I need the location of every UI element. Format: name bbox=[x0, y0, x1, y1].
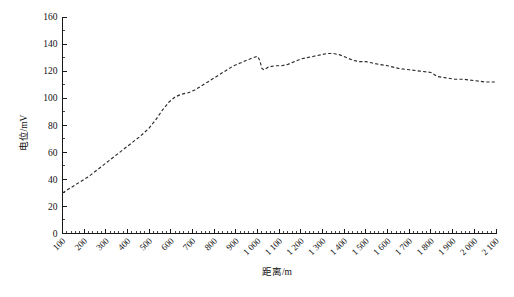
y-tick-label: 140 bbox=[43, 39, 58, 49]
x-axis-major-ticks bbox=[63, 229, 497, 234]
y-tick-label: 20 bbox=[48, 202, 58, 212]
y-tick-label: 120 bbox=[43, 66, 58, 76]
y-tick-label: 80 bbox=[48, 121, 58, 131]
y-tick-label: 60 bbox=[48, 148, 58, 158]
y-tick-label: 160 bbox=[43, 12, 58, 22]
y-tick-label: 0 bbox=[53, 229, 58, 239]
y-tick-label: 100 bbox=[43, 93, 58, 103]
x-axis-title: 距离/m bbox=[262, 266, 293, 277]
y-axis-title: 电位/mV bbox=[18, 114, 29, 151]
potential-distance-line-chart: 020406080100120140160 100200300400500600… bbox=[0, 0, 514, 297]
chart-background bbox=[0, 0, 514, 297]
chart-figure: 020406080100120140160 100200300400500600… bbox=[0, 0, 514, 297]
y-tick-label: 40 bbox=[48, 175, 58, 185]
